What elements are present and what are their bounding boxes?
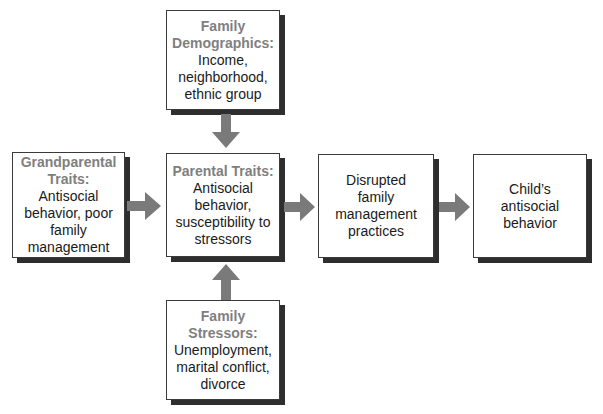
node-text: behavior, poor xyxy=(24,205,113,222)
node-disrupted-family-management: Disrupted family management practices xyxy=(318,154,434,258)
node-title: Demographics: xyxy=(172,35,274,52)
node-childs-antisocial-behavior: Child’s antisocial behavior xyxy=(473,154,587,258)
node-text: susceptibility to xyxy=(176,214,271,231)
node-grandparental-traits: Grandparental Traits: Antisocial behavio… xyxy=(12,152,125,258)
node-family-demographics: Family Demographics: Income, neighborhoo… xyxy=(166,10,280,110)
node-parental-traits: Parental Traits: Antisocial behavior, su… xyxy=(166,153,280,257)
node-text: family xyxy=(358,189,395,206)
node-text: Antisocial xyxy=(39,188,99,205)
node-text: family xyxy=(50,222,87,239)
arrow-right-icon xyxy=(127,191,163,221)
node-text: practices xyxy=(348,223,404,240)
node-text: behavior, xyxy=(195,197,252,214)
node-title: Family xyxy=(201,18,245,35)
node-title: Parental Traits: xyxy=(172,163,273,180)
arrow-right-icon xyxy=(439,192,471,222)
node-title: Stressors: xyxy=(188,325,257,342)
arrow-down-icon xyxy=(211,114,241,150)
node-text: neighborhood, xyxy=(178,69,268,86)
node-text: behavior xyxy=(503,215,557,232)
node-text: Child’s xyxy=(509,181,551,198)
arrow-up-icon xyxy=(211,264,241,300)
node-text: Unemployment, xyxy=(174,342,272,359)
node-title: Grandparental xyxy=(21,154,117,171)
node-text: management xyxy=(28,239,110,256)
node-text: Income, xyxy=(198,52,248,69)
node-text: ethnic group xyxy=(184,86,261,103)
node-title: Family xyxy=(201,308,245,325)
node-text: Disrupted xyxy=(346,172,406,189)
node-text: antisocial xyxy=(501,198,559,215)
arrow-right-icon xyxy=(284,192,316,222)
node-text: marital conflict, xyxy=(176,359,269,376)
node-text: stressors xyxy=(195,231,252,248)
node-text: Antisocial xyxy=(193,180,253,197)
node-text: management xyxy=(335,206,417,223)
node-text: divorce xyxy=(200,376,245,393)
node-title: Traits: xyxy=(47,171,89,188)
node-family-stressors: Family Stressors: Unemployment, marital … xyxy=(166,300,280,400)
